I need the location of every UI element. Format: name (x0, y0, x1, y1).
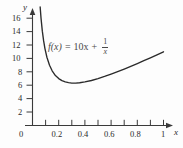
formula-equals-sign: = (65, 42, 71, 52)
x-tick-label-1: 1 (161, 130, 165, 139)
plot-canvas (0, 0, 183, 148)
x-tick-label-0-4: 0.4 (78, 130, 89, 139)
y-tick-label-4: 4 (18, 94, 22, 103)
y-axis-ticks (27, 18, 33, 112)
formula-fraction-numerator: 1 (102, 38, 108, 46)
x-tick-label-0-6: 0.6 (104, 130, 115, 139)
y-axis-label: y (23, 3, 27, 12)
x-tick-label-0-2: 0.2 (52, 130, 63, 139)
formula-plus-sign: + (92, 42, 98, 52)
y-tick-label-10: 10 (12, 54, 21, 63)
y-tick-label-12: 12 (12, 41, 21, 50)
x-tick-label-0-8: 0.8 (130, 130, 141, 139)
y-axis-arrow-icon (30, 8, 36, 15)
x-axis-arrow-icon (166, 123, 173, 129)
function-plot-figure: 16 14 12 10 8 6 4 2 0 0.2 0.4 0.6 0.8 1 … (0, 0, 183, 148)
y-tick-label-8: 8 (18, 68, 22, 77)
formula-fraction-denominator: x (102, 48, 108, 56)
function-formula-annotation: f(x) = 10x + 1 x (48, 38, 108, 56)
formula-linear-term: 10x (74, 42, 89, 52)
x-axis-label: x (174, 128, 178, 137)
formula-function-name: f(x) (48, 42, 62, 52)
y-tick-label-6: 6 (18, 81, 22, 90)
x-axis-ticks (46, 120, 164, 126)
origin-label: 0 (19, 130, 23, 139)
y-tick-label-14: 14 (12, 27, 21, 36)
y-tick-label-16: 16 (12, 14, 21, 23)
formula-fraction: 1 x (102, 38, 108, 56)
y-tick-label-2: 2 (18, 108, 22, 117)
